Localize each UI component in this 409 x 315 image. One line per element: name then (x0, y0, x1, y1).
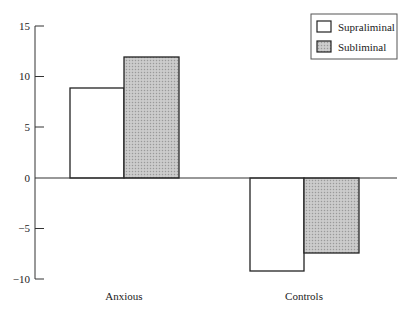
bar-anxious-subliminal (124, 57, 179, 178)
bar-controls-subliminal (304, 178, 359, 253)
legend-label-supraliminal: Supraliminal (338, 21, 395, 33)
y-tick-label: 10 (19, 70, 31, 82)
y-tick-label: 15 (19, 20, 31, 32)
bar-controls-supraliminal (250, 178, 304, 271)
legend-swatch-subliminal (317, 41, 331, 52)
category-label-anxious: Anxious (105, 290, 142, 302)
bar-chart: 15 10 5 0 −5 −10 Anxious Controls Supral… (0, 0, 409, 315)
legend-label-subliminal: Subliminal (338, 41, 386, 53)
bar-anxious-supraliminal (70, 88, 124, 178)
category-label-controls: Controls (285, 290, 323, 302)
y-tick-label: −10 (13, 273, 31, 285)
y-tick-label: 0 (25, 172, 31, 184)
legend-swatch-supraliminal (317, 21, 331, 32)
bars (70, 57, 359, 271)
y-axis: 15 10 5 0 −5 −10 (13, 20, 44, 285)
y-tick-label: −5 (18, 222, 30, 234)
legend: Supraliminal Subliminal (311, 14, 397, 59)
y-tick-label: 5 (25, 121, 31, 133)
